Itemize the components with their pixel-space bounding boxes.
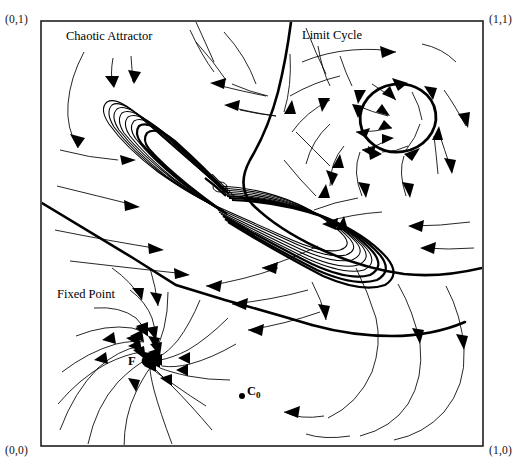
chaotic-attractor-label: Chaotic Attractor (66, 29, 153, 43)
c0-subscript: 0 (256, 390, 261, 400)
fixed-point-F-label: F (128, 354, 136, 368)
flow-field-lower-right-sweep (284, 268, 464, 440)
flow-field-top-middle (190, 22, 276, 116)
flow-field-attractor-inflow (214, 32, 290, 116)
flow-field-upper-left (55, 52, 186, 274)
flow-field-limit-cycle-inflow (290, 44, 466, 196)
fixed-point-marker (142, 356, 153, 367)
c0-base: C (247, 384, 256, 398)
fixed-point-label: Fixed Point (57, 287, 116, 301)
initial-condition-marker (239, 393, 245, 399)
phase-portrait-canvas: Chaotic Attractor Limit Cycle Fixed Poin… (0, 0, 524, 467)
phase-portrait-figure: (0,1) (1,1) (0,0) (1,0) (0, 0, 524, 467)
initial-condition-C0-label: C0 (247, 384, 261, 400)
limit-cycle-label: Limit Cycle (302, 28, 363, 42)
chaotic-attractor-lower-lobe (216, 186, 394, 288)
basin-boundary-branch (312, 322, 465, 336)
